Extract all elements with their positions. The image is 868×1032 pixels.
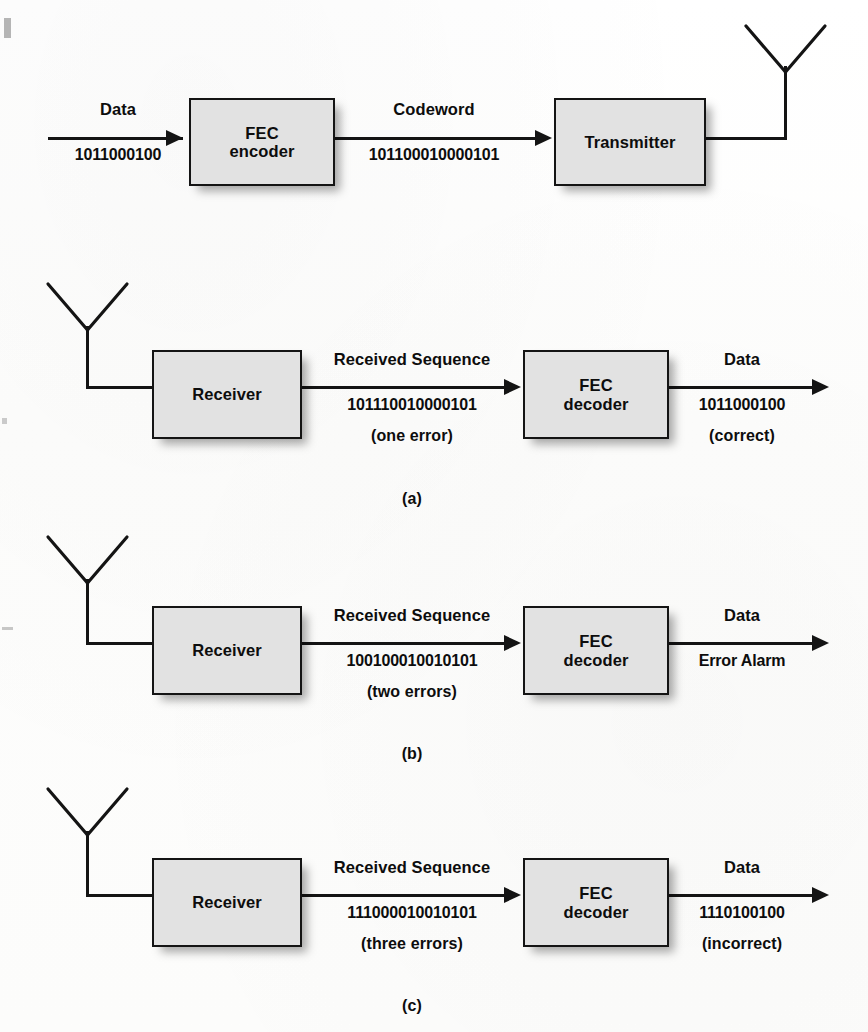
output-label-c: Data (724, 858, 760, 877)
output-bits-a: 1011000100 (699, 396, 786, 414)
receiver-line1-c: Receiver (192, 893, 262, 911)
rx-antenna-mast-a (86, 326, 89, 389)
output-line-c (665, 894, 815, 897)
panel-caption-c: (c) (402, 997, 422, 1015)
fec-decoder-line2-a: decoder (564, 395, 629, 413)
received-sequence-bits-c: 111000010010101 (347, 904, 476, 922)
fec-decoder-block-b[interactable]: FEC decoder (523, 606, 669, 695)
fec-decoder-block-a[interactable]: FEC decoder (523, 350, 669, 439)
fec-decoder-line1-b: FEC (579, 632, 612, 650)
fec-decoder-line1-a: FEC (579, 376, 612, 394)
tx-antenna-feed-vertical (784, 66, 787, 140)
output-line-b (665, 642, 815, 645)
received-sequence-label-c: Received Sequence (334, 858, 491, 877)
rx-antenna-mast-c (86, 831, 89, 897)
output-label-a: Data (724, 350, 760, 369)
panel-caption-a: (a) (402, 490, 422, 508)
scan-artifact-lower-left (2, 627, 13, 630)
received-sequence-bits-a: 101110010000101 (347, 396, 476, 414)
output-line-a (665, 386, 815, 389)
codeword-line (331, 137, 536, 140)
scan-artifact-top-left (4, 18, 11, 38)
received-sequence-line-b (298, 642, 505, 645)
tx-data-bits: 1011000100 (75, 146, 162, 164)
rx-antenna-feed-c (86, 894, 154, 897)
rx-antenna-feed-a (86, 386, 154, 389)
fec-encoder-block[interactable]: FEC encoder (189, 98, 335, 186)
receive-antenna-icon-a (46, 282, 132, 334)
rx-antenna-feed-b (86, 642, 154, 645)
tx-data-label: Data (100, 100, 136, 119)
panel-caption-b: (b) (402, 745, 423, 763)
output-label-b: Data (724, 606, 760, 625)
received-sequence-label-a: Received Sequence (334, 350, 491, 369)
tx-antenna-feed-horizontal (702, 137, 787, 140)
received-sequence-bits-b: 100100010010101 (346, 652, 477, 670)
receiver-line1-b: Receiver (192, 641, 262, 659)
receiver-line1-a: Receiver (192, 385, 262, 403)
receiver-block-a[interactable]: Receiver (152, 350, 302, 439)
output-bits-b: Error Alarm (699, 652, 786, 670)
received-sequence-label-b: Received Sequence (334, 606, 491, 625)
output-note-c: (incorrect) (702, 935, 782, 953)
scan-artifact-mid-left (2, 418, 7, 424)
received-sequence-arrowhead-c (504, 887, 521, 903)
fec-encoder-line1: FEC (245, 124, 278, 142)
receiver-block-b[interactable]: Receiver (152, 606, 302, 695)
fec-decoder-block-c[interactable]: FEC decoder (523, 858, 669, 947)
fec-decoder-line1-c: FEC (579, 884, 612, 902)
received-sequence-note-b: (two errors) (367, 683, 457, 701)
output-arrowhead-b (812, 635, 829, 651)
codeword-arrowhead (535, 130, 552, 146)
output-arrowhead-a (812, 379, 829, 395)
receiver-block-c[interactable]: Receiver (152, 858, 302, 947)
codeword-label: Codeword (393, 100, 474, 119)
received-sequence-note-c: (three errors) (361, 935, 463, 953)
output-bits-c: 1110100100 (699, 904, 785, 922)
received-sequence-arrowhead-b (504, 635, 521, 651)
received-sequence-arrowhead-a (504, 379, 521, 395)
transmitter-line1: Transmitter (585, 133, 676, 151)
codeword-bits: 101100010000101 (369, 146, 499, 164)
data-input-line (48, 137, 183, 140)
fec-encoder-line2: encoder (230, 142, 295, 160)
fec-block-diagram: Data 1011000100 FEC encoder Codeword 101… (0, 0, 868, 1032)
received-sequence-line-a (298, 386, 505, 389)
output-arrowhead-c (812, 887, 829, 903)
receive-antenna-icon-c (46, 787, 132, 839)
received-sequence-note-a: (one error) (371, 427, 453, 445)
fec-decoder-line2-b: decoder (564, 651, 629, 669)
received-sequence-line-c (298, 894, 505, 897)
output-note-a: (correct) (709, 427, 775, 445)
rx-antenna-mast-b (86, 579, 89, 645)
transmitter-block[interactable]: Transmitter (554, 98, 706, 186)
data-input-arrowhead (166, 130, 183, 146)
transmit-antenna-icon (744, 24, 830, 76)
receive-antenna-icon-b (46, 535, 132, 587)
fec-decoder-line2-c: decoder (564, 903, 629, 921)
